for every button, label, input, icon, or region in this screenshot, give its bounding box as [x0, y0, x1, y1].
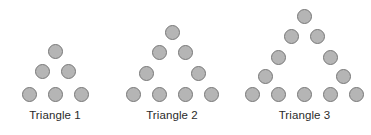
dot	[245, 87, 260, 102]
dot	[310, 29, 325, 44]
dot	[349, 87, 364, 102]
dot	[35, 64, 50, 79]
dot	[48, 44, 63, 59]
dot	[323, 87, 338, 102]
triangle-figure-2: Triangle 2	[113, 0, 231, 135]
dot	[297, 87, 312, 102]
dot	[258, 69, 273, 84]
dot	[297, 9, 312, 24]
dot	[271, 87, 286, 102]
dot	[284, 29, 299, 44]
triangle-label-3: Triangle 3	[238, 108, 371, 122]
dot	[191, 66, 206, 81]
dot	[323, 50, 338, 65]
dot	[22, 87, 37, 102]
dot-pattern-diagram: Triangle 1Triangle 2Triangle 3	[0, 0, 371, 135]
dot	[48, 87, 63, 102]
dot	[139, 66, 154, 81]
dot	[178, 45, 193, 60]
dot	[126, 87, 141, 102]
dot	[152, 45, 167, 60]
dot	[152, 87, 167, 102]
dot	[336, 69, 351, 84]
dot	[165, 25, 180, 40]
dot	[74, 87, 89, 102]
triangle-figure-1: Triangle 1	[0, 0, 110, 135]
triangle-label-2: Triangle 2	[113, 108, 231, 122]
dot	[178, 87, 193, 102]
dot	[204, 87, 219, 102]
dot	[271, 50, 286, 65]
triangle-figure-3: Triangle 3	[238, 0, 371, 135]
dot	[61, 64, 76, 79]
triangle-label-1: Triangle 1	[0, 108, 110, 122]
